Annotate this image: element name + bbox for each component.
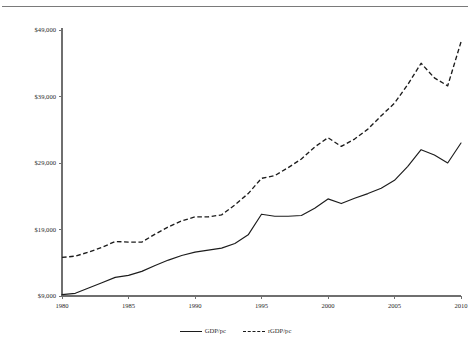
x-axis-tick-label: 1990 — [188, 302, 202, 309]
series-line-rgdp-pc — [62, 42, 461, 257]
y-axis-tick-label: $19,000 — [35, 226, 57, 233]
series-line-gdp-pc — [62, 143, 461, 295]
figure-container: $9,000$19,000$29,000$39,000$49,000198019… — [0, 0, 471, 343]
dashed-line-swatch — [243, 331, 265, 332]
x-axis-tick-label: 2010 — [454, 302, 468, 309]
series-group — [62, 42, 461, 295]
solid-line-swatch — [180, 331, 202, 332]
y-axis-tick-label: $9,000 — [38, 292, 57, 299]
legend-label: GDP/pc — [205, 327, 226, 335]
y-axis-tick-label: $29,000 — [35, 159, 57, 166]
legend-item[interactable]: GDP/pc — [180, 327, 226, 335]
x-axis-tick-label: 2000 — [321, 302, 335, 309]
x-axis-tick-label: 2005 — [388, 302, 402, 309]
y-axis-tick-label: $49,000 — [35, 26, 57, 33]
legend-label: rGDP/pc — [268, 327, 291, 335]
x-axis-tick-label: 1985 — [122, 302, 136, 309]
y-axis-tick-label: $39,000 — [35, 93, 57, 100]
chart-legend: GDP/pcrGDP/pc — [0, 327, 471, 335]
x-axis-tick-label: 1980 — [55, 302, 69, 309]
axes-group: $9,000$19,000$29,000$39,000$49,000198019… — [35, 26, 469, 309]
legend-item[interactable]: rGDP/pc — [243, 327, 291, 335]
x-axis-tick-label: 1995 — [255, 302, 269, 309]
line-chart-plot: $9,000$19,000$29,000$39,000$49,000198019… — [0, 0, 471, 343]
